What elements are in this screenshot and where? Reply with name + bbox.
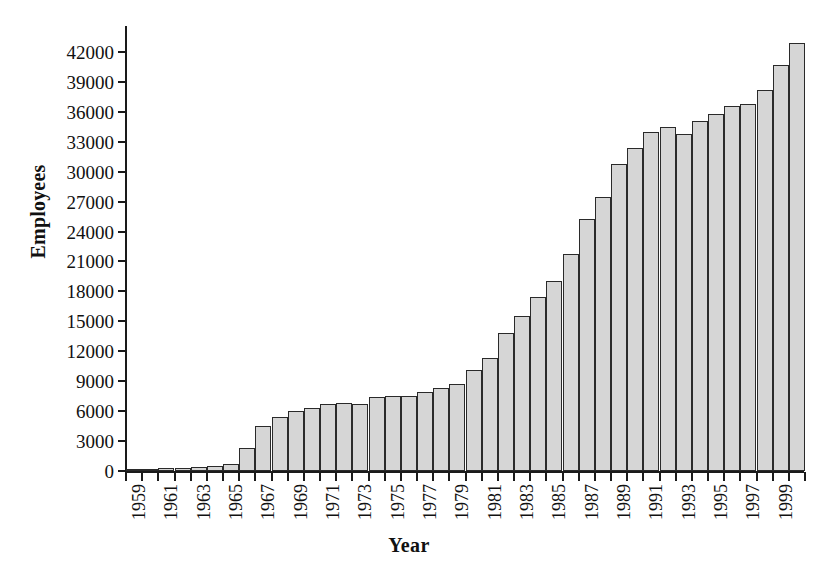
bar xyxy=(514,316,530,471)
x-axis-tick xyxy=(642,472,644,481)
y-axis-tick-label: 0 xyxy=(105,462,115,481)
bar xyxy=(643,132,659,471)
y-axis-tick xyxy=(118,51,126,53)
bars-layer xyxy=(125,26,804,472)
y-axis-tick xyxy=(118,410,126,412)
x-axis-tick-label: 1981 xyxy=(486,484,504,520)
bar xyxy=(142,469,158,471)
bar xyxy=(352,404,368,471)
bar xyxy=(757,90,773,471)
bar xyxy=(449,384,465,471)
x-axis-tick xyxy=(788,472,790,481)
x-axis-tick xyxy=(707,472,709,481)
x-axis-tick xyxy=(594,472,596,481)
x-axis-tick xyxy=(157,472,159,481)
plot-area: 0300060009000120001500018000210002400027… xyxy=(125,26,803,472)
x-axis-tick-label: 1963 xyxy=(195,484,213,520)
x-axis-tick-label: 1967 xyxy=(259,484,277,520)
y-axis-tick-label: 24000 xyxy=(67,222,115,241)
x-axis-tick-label: 1987 xyxy=(583,484,601,520)
bar xyxy=(579,219,595,471)
x-axis-tick xyxy=(238,472,240,481)
x-axis-tick-label: 1991 xyxy=(647,484,665,520)
x-axis-tick-label: 1979 xyxy=(453,484,471,520)
y-axis-tick xyxy=(118,320,126,322)
y-axis-tick-label: 6000 xyxy=(76,402,114,421)
x-axis-tick xyxy=(465,472,467,481)
x-axis-tick-label: 1997 xyxy=(744,484,762,520)
bar xyxy=(546,281,562,471)
x-axis-tick-label: 1969 xyxy=(292,484,310,520)
x-axis-tick xyxy=(287,472,289,481)
bar xyxy=(191,467,207,471)
x-axis-tick xyxy=(529,472,531,481)
bar xyxy=(272,417,288,471)
x-axis-tick xyxy=(141,472,143,481)
bar xyxy=(482,358,498,471)
x-axis-tick xyxy=(432,472,434,481)
x-axis-tick xyxy=(772,472,774,481)
bar xyxy=(126,469,142,471)
y-axis-title: Employees xyxy=(27,112,50,312)
bar xyxy=(320,404,336,471)
y-axis-tick xyxy=(118,260,126,262)
y-axis-tick xyxy=(118,380,126,382)
x-axis-tick xyxy=(804,472,806,481)
y-axis-tick-label: 18000 xyxy=(67,282,115,301)
y-axis-tick xyxy=(118,171,126,173)
x-axis-tick xyxy=(303,472,305,481)
y-axis-tick xyxy=(118,440,126,442)
y-axis-tick-label: 33000 xyxy=(67,132,115,151)
bar xyxy=(175,468,191,471)
bar xyxy=(773,65,789,471)
x-axis-tick-label: 1995 xyxy=(712,484,730,520)
y-axis-tick-label: 15000 xyxy=(67,312,115,331)
y-axis-tick-label: 9000 xyxy=(76,372,114,391)
y-axis-tick xyxy=(118,141,126,143)
x-axis-tick xyxy=(222,472,224,481)
x-axis-tick-label: 1959 xyxy=(130,484,148,520)
y-axis-tick xyxy=(118,201,126,203)
y-axis-tick xyxy=(118,290,126,292)
x-axis-tick xyxy=(626,472,628,481)
y-axis-tick-label: 30000 xyxy=(67,162,115,181)
bar xyxy=(417,392,433,471)
bar xyxy=(724,106,740,471)
x-axis-tick xyxy=(448,472,450,481)
y-axis-tick xyxy=(118,81,126,83)
y-axis-tick-label: 12000 xyxy=(67,342,115,361)
bar xyxy=(401,396,417,471)
y-axis-tick xyxy=(118,111,126,113)
x-axis-tick xyxy=(174,472,176,481)
x-axis-tick xyxy=(416,472,418,481)
x-axis-tick-label: 1983 xyxy=(518,484,536,520)
x-axis-tick xyxy=(206,472,208,481)
bar xyxy=(692,121,708,471)
bar xyxy=(304,408,320,471)
x-axis-tick xyxy=(497,472,499,481)
x-axis-tick-label: 1999 xyxy=(777,484,795,520)
x-axis-tick xyxy=(351,472,353,481)
x-axis-tick xyxy=(335,472,337,481)
bar xyxy=(207,466,223,471)
x-axis-tick xyxy=(513,472,515,481)
x-axis-tick xyxy=(578,472,580,481)
x-axis-tick-label: 1993 xyxy=(680,484,698,520)
bar xyxy=(433,388,449,471)
x-axis-tick-label: 1989 xyxy=(615,484,633,520)
x-axis-tick xyxy=(545,472,547,481)
x-axis-tick xyxy=(723,472,725,481)
bar xyxy=(660,127,676,471)
y-axis-tick-label: 3000 xyxy=(76,432,114,451)
bar xyxy=(369,397,385,471)
bar xyxy=(627,148,643,471)
bar xyxy=(385,396,401,471)
bar xyxy=(223,464,239,471)
x-axis-tick-label: 1977 xyxy=(421,484,439,520)
bar xyxy=(466,370,482,471)
x-axis-tick-label: 1975 xyxy=(389,484,407,520)
bar xyxy=(563,254,579,472)
bar xyxy=(255,426,271,471)
x-axis-tick xyxy=(319,472,321,481)
x-axis-tick xyxy=(254,472,256,481)
